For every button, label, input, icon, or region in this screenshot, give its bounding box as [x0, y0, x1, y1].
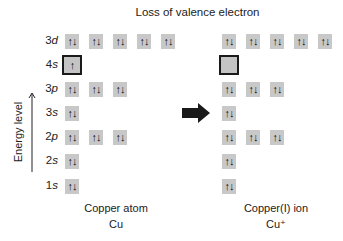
orbital-box: ↑↓	[65, 34, 79, 49]
orbital-box: ↑↓	[222, 154, 236, 169]
orbital-box: ↑↓	[113, 82, 127, 97]
copper-ion-symbol: Cu⁺	[221, 218, 331, 231]
up-arrow-icon	[28, 92, 36, 172]
copper-ion-caption: Copper(I) ion	[221, 202, 331, 214]
orbital-label-3d: 3d	[36, 34, 58, 46]
energy-level-axis-label: Energy level	[12, 101, 24, 163]
orbital-box: ↑↓	[89, 82, 103, 97]
orbital-box: ↑↓	[161, 34, 175, 49]
orbital-box: ↑↓	[246, 130, 260, 145]
orbital-box: ↑↓	[89, 130, 103, 145]
orbital-label-3p: 3p	[36, 82, 58, 94]
empty-valence-orbital-box	[219, 55, 239, 75]
orbital-box: ↑↓	[222, 179, 236, 194]
orbital-label-1s: 1s	[36, 179, 58, 191]
orbital-label-4s: 4s	[36, 58, 58, 70]
orbital-box: ↑↓	[270, 130, 284, 145]
orbital-box: ↑↓	[270, 34, 284, 49]
orbital-label-2s: 2s	[36, 154, 58, 166]
orbital-box: ↑↓	[65, 154, 79, 169]
orbital-box: ↑↓	[294, 34, 308, 49]
orbital-box: ↑↓	[222, 130, 236, 145]
orbital-box: ↑↓	[65, 179, 79, 194]
orbital-box: ↑↓	[246, 34, 260, 49]
right-arrow-icon	[182, 103, 210, 123]
orbital-label-3s: 3s	[36, 106, 58, 118]
diagram-title: Loss of valence electron	[0, 6, 343, 18]
orbital-label-2p: 2p	[36, 130, 58, 142]
orbital-box: ↑↓	[137, 34, 151, 49]
orbital-box: ↑↓	[222, 34, 236, 49]
orbital-box: ↑↓	[113, 130, 127, 145]
orbital-box: ↑↓	[270, 82, 284, 97]
orbital-box: ↑↓	[65, 106, 79, 121]
orbital-box: ↑↓	[65, 82, 79, 97]
orbital-box: ↑↓	[222, 106, 236, 121]
valence-orbital-box: ↑	[62, 55, 82, 75]
copper-atom-caption: Copper atom	[61, 202, 171, 214]
orbital-box: ↑↓	[113, 34, 127, 49]
orbital-box: ↑↓	[222, 82, 236, 97]
copper-atom-symbol: Cu	[61, 218, 171, 230]
orbital-box: ↑↓	[246, 82, 260, 97]
orbital-box: ↑↓	[65, 130, 79, 145]
orbital-box: ↑↓	[89, 34, 103, 49]
orbital-box: ↑↓	[318, 34, 332, 49]
